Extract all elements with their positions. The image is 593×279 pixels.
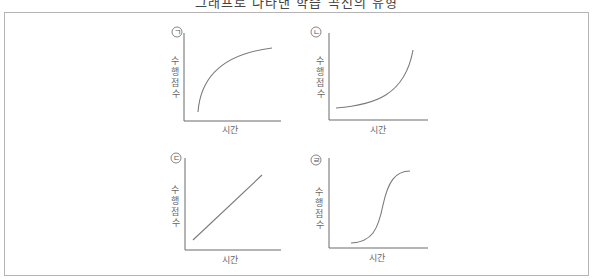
panel-marker: ㄴ [313,28,320,37]
curve-line [351,171,410,243]
y-axis-label: 수 행 점 수 [316,56,327,99]
x-axis-label: 시간 [370,125,386,135]
x-axis-label: 시간 [222,255,238,265]
panel-marker: ㄷ [173,154,180,163]
curve-line [336,50,413,108]
y-axis-label: 수 행 점 수 [171,56,182,99]
x-axis-label: 시간 [222,125,238,135]
curve-line [193,175,262,240]
panel-2: ㄴ 수 행 점 수 시간 [311,27,428,135]
y-axis-label: 수 행 점 수 [171,185,182,228]
curve-line [198,48,272,112]
panel-marker: ㄱ [174,28,181,37]
x-axis-label: 시간 [369,253,385,263]
y-axis-label: 수 행 점 수 [315,187,326,230]
panel-3: ㄷ 수 행 점 수 시간 [171,153,281,265]
panel-4: ㄹ 수 행 점 수 시간 [311,155,428,263]
learning-curve-plots: ㄱ 수 행 점 수 시간 ㄴ 수 행 점 수 시간 ㄷ 수 [0,0,593,279]
panel-1: ㄱ 수 행 점 수 시간 [171,27,281,135]
panel-marker: ㄹ [313,156,320,165]
